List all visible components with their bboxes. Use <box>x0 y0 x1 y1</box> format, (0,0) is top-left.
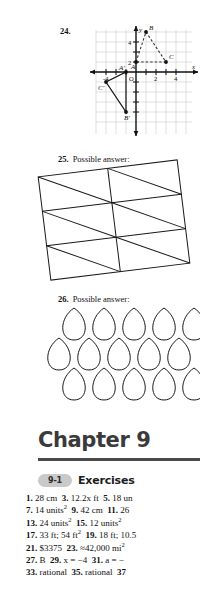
answer-number: 17. <box>26 530 37 540</box>
answer-number: 7. <box>26 505 33 515</box>
answer-number: 19. <box>86 530 97 540</box>
lesson-header: 9-1 Exercises <box>0 472 200 490</box>
answer-exponent: 2 <box>118 517 121 523</box>
answer-number: 35. <box>72 567 83 577</box>
answer-value: 28 cm <box>33 493 58 503</box>
y-tick-2: 2 <box>128 59 131 66</box>
grid-diagonal-5 <box>47 237 121 280</box>
lesson-title: Exercises <box>78 474 135 487</box>
problem-24: 24. <box>0 22 200 140</box>
answer-value: rational <box>37 567 67 577</box>
grid-diagonal-6 <box>116 229 190 272</box>
problem-24-number: 24. <box>60 26 71 36</box>
problem-25-figure <box>28 162 200 278</box>
grid-vline-1 <box>108 168 121 271</box>
chapter-rule <box>38 458 200 461</box>
chapter-title: Chapter 9 <box>38 428 151 452</box>
point-C <box>164 60 168 64</box>
answer-line: 13. 24 units2 15. 12 units2 <box>0 517 200 529</box>
answer-line: 33. rational 35. rational 37 <box>0 566 200 578</box>
label-C-prime: C' <box>98 84 105 92</box>
answer-line: 21. $3375 23. ≈42,000 mi2 <box>0 542 200 554</box>
answer-number: 33. <box>26 567 37 577</box>
answer-number: 11. <box>107 505 118 515</box>
preimage-triangle <box>136 32 166 62</box>
answer-value: 33 ft; 54 ft <box>37 530 78 540</box>
grid-diagonal-2 <box>108 160 182 203</box>
tilted-grid-svg <box>28 162 200 278</box>
answer-value: $3375 <box>37 543 62 553</box>
answer-number: 13. <box>26 518 37 528</box>
y-tick-4: 4 <box>128 39 132 46</box>
label-B-prime: B' <box>124 114 130 122</box>
answer-line: 7. 14 units2 9. 42 cm 11. 26 <box>0 504 200 516</box>
answer-value: 24 units <box>37 518 68 528</box>
tilted-grid-group <box>38 160 190 280</box>
answer-number: 31. <box>92 555 103 565</box>
answer-value: 14 units <box>33 505 64 515</box>
answer-line: 27. B 29. x = −4 31. a = − <box>0 554 200 566</box>
grid-diagonal-1 <box>38 168 112 211</box>
scale-rows <box>48 308 200 400</box>
answer-number: 21. <box>26 543 37 553</box>
answer-value: 18 un <box>110 493 133 503</box>
answer-number: 5. <box>103 493 110 503</box>
answer-number: 27. <box>26 555 37 565</box>
problem-26-figure <box>52 302 200 406</box>
answer-value: 18 ft; 10.5 <box>97 530 137 540</box>
answer-value: 12 units <box>87 518 118 528</box>
answer-exponent: 2 <box>121 542 124 548</box>
answer-value: 42 cm <box>78 505 103 515</box>
answer-value: a = − <box>103 555 124 565</box>
y-axis-label: y <box>138 26 143 34</box>
answer-key-page: 24. <box>0 0 200 599</box>
problem-26: 26. Possible answer: <box>0 288 200 410</box>
scale-row-1 <box>63 308 200 340</box>
lesson-number-badge: 9-1 <box>38 474 72 487</box>
problem-25: 25. Possible answer: <box>0 148 200 278</box>
grid-diagonal-4 <box>112 194 186 237</box>
scale-row-3 <box>63 368 200 400</box>
chapter-heading: Chapter 9 <box>0 424 200 470</box>
label-C: C <box>169 53 174 61</box>
grid-lines <box>96 30 192 134</box>
answer-list: 1. 28 cm 3. 12.2x ft 5. 18 un7. 14 units… <box>0 492 200 579</box>
origin-label: O <box>129 75 134 82</box>
answer-number: 1. <box>26 493 33 503</box>
answer-number: 3. <box>62 493 69 503</box>
problem-24-coordinate-plane: A B C A' B' C' y x O -4 2 4 4 2 <box>88 22 200 140</box>
answer-number: 37 <box>117 567 126 577</box>
answer-number: 29. <box>50 555 61 565</box>
answer-value: ≈42,000 mi <box>78 543 122 553</box>
fish-scale-tessellation-svg <box>52 302 200 406</box>
answer-value: x = −4 <box>61 555 87 565</box>
answer-line: 17. 33 ft; 54 ft2 19. 18 ft; 10.5 <box>0 529 200 541</box>
answer-number: 23. <box>67 543 78 553</box>
point-B <box>144 30 148 34</box>
x-tick-neg4: -4 <box>103 75 109 82</box>
answer-number: 15. <box>76 518 87 528</box>
coordinate-plane-svg: A B C A' B' C' y x O -4 2 4 4 2 <box>88 22 200 140</box>
lesson-section: 9-1 Exercises 1. 28 cm 3. 12.2x ft 5. 18… <box>0 472 200 579</box>
answer-value: rational <box>83 567 113 577</box>
grid-diagonal-3 <box>42 203 116 246</box>
answer-value: B <box>37 555 45 565</box>
answer-value: 26 <box>118 505 129 515</box>
label-B: B <box>149 24 154 32</box>
label-A-prime: A' <box>118 64 125 72</box>
x-axis-label: x <box>191 63 196 71</box>
answer-line: 1. 28 cm 3. 12.2x ft 5. 18 un <box>0 492 200 504</box>
answer-value: 12.2x ft <box>69 493 99 503</box>
scale-row-2 <box>48 338 191 370</box>
x-tick-4: 4 <box>174 75 178 82</box>
x-tick-2: 2 <box>154 75 157 82</box>
